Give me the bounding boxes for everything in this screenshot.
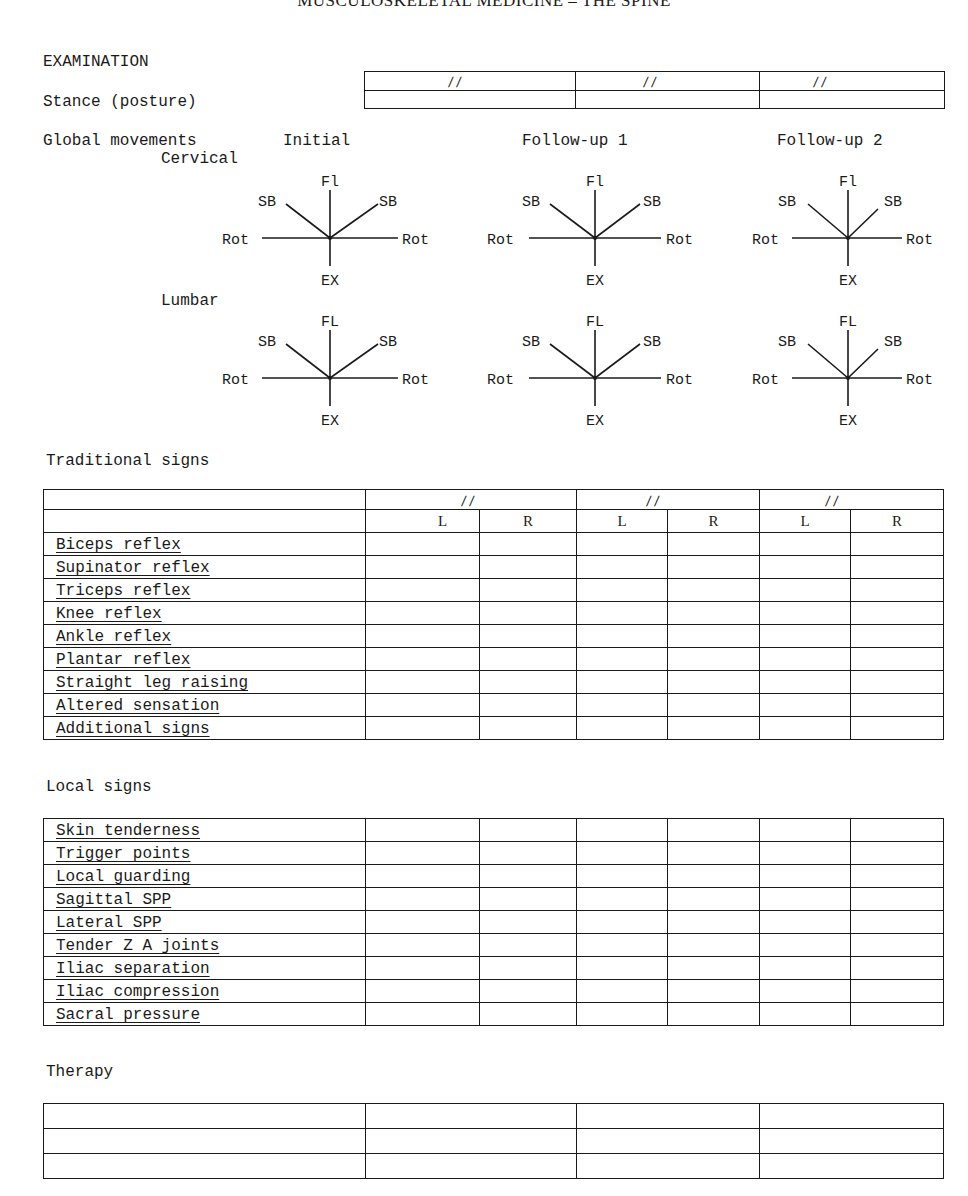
left-side-input-cell[interactable] bbox=[760, 625, 851, 648]
left-side-input-cell[interactable] bbox=[366, 717, 480, 740]
stance-followup2-input[interactable] bbox=[760, 91, 945, 109]
left-side-input-cell[interactable] bbox=[760, 533, 851, 556]
left-side-input-cell[interactable] bbox=[760, 648, 851, 671]
cervical-initial-star-diagram[interactable]: Fl SB SB Rot Rot EX bbox=[210, 168, 450, 293]
right-side-input-cell[interactable] bbox=[668, 888, 760, 911]
lumbar-initial-star-diagram[interactable]: FL SB SB Rot Rot EX bbox=[210, 308, 450, 433]
right-side-input-cell[interactable] bbox=[851, 865, 944, 888]
right-side-input-cell[interactable] bbox=[851, 934, 944, 957]
left-side-input-cell[interactable] bbox=[577, 819, 668, 842]
right-side-input-cell[interactable] bbox=[668, 579, 760, 602]
right-side-input-cell[interactable] bbox=[851, 533, 944, 556]
right-side-input-cell[interactable] bbox=[851, 1003, 944, 1026]
right-side-input-cell[interactable] bbox=[480, 602, 577, 625]
left-side-input-cell[interactable] bbox=[366, 934, 480, 957]
left-side-input-cell[interactable] bbox=[366, 865, 480, 888]
right-side-input-cell[interactable] bbox=[480, 648, 577, 671]
left-side-input-cell[interactable] bbox=[577, 957, 668, 980]
right-side-input-cell[interactable] bbox=[480, 865, 577, 888]
left-side-input-cell[interactable] bbox=[760, 911, 851, 934]
left-side-input-cell[interactable] bbox=[366, 556, 480, 579]
right-side-input-cell[interactable] bbox=[851, 602, 944, 625]
left-side-input-cell[interactable] bbox=[577, 865, 668, 888]
left-side-input-cell[interactable] bbox=[366, 1003, 480, 1026]
left-side-input-cell[interactable] bbox=[577, 888, 668, 911]
stance-date-followup1[interactable]: / / bbox=[576, 72, 760, 91]
therapy-input-cell[interactable] bbox=[366, 1104, 577, 1129]
right-side-input-cell[interactable] bbox=[668, 934, 760, 957]
left-side-input-cell[interactable] bbox=[760, 694, 851, 717]
right-side-input-cell[interactable] bbox=[851, 648, 944, 671]
right-side-input-cell[interactable] bbox=[668, 533, 760, 556]
stance-initial-input[interactable] bbox=[365, 91, 576, 109]
right-side-input-cell[interactable] bbox=[851, 819, 944, 842]
right-side-input-cell[interactable] bbox=[851, 980, 944, 1003]
trad-date-followup1[interactable]: / / bbox=[577, 490, 760, 510]
right-side-input-cell[interactable] bbox=[668, 865, 760, 888]
right-side-input-cell[interactable] bbox=[480, 533, 577, 556]
right-side-input-cell[interactable] bbox=[668, 1003, 760, 1026]
left-side-input-cell[interactable] bbox=[577, 671, 668, 694]
therapy-input-cell[interactable] bbox=[577, 1154, 760, 1179]
right-side-input-cell[interactable] bbox=[851, 911, 944, 934]
left-side-input-cell[interactable] bbox=[577, 694, 668, 717]
right-side-input-cell[interactable] bbox=[668, 980, 760, 1003]
left-side-input-cell[interactable] bbox=[577, 934, 668, 957]
right-side-input-cell[interactable] bbox=[480, 980, 577, 1003]
trad-date-followup2[interactable]: / / bbox=[760, 490, 944, 510]
right-side-input-cell[interactable] bbox=[851, 625, 944, 648]
left-side-input-cell[interactable] bbox=[760, 980, 851, 1003]
right-side-input-cell[interactable] bbox=[480, 911, 577, 934]
lumbar-followup2-star-diagram[interactable]: FL SB SB Rot Rot EX bbox=[728, 308, 968, 433]
left-side-input-cell[interactable] bbox=[760, 671, 851, 694]
left-side-input-cell[interactable] bbox=[366, 980, 480, 1003]
left-side-input-cell[interactable] bbox=[366, 819, 480, 842]
left-side-input-cell[interactable] bbox=[760, 819, 851, 842]
left-side-input-cell[interactable] bbox=[577, 842, 668, 865]
right-side-input-cell[interactable] bbox=[851, 888, 944, 911]
therapy-input-cell[interactable] bbox=[577, 1104, 760, 1129]
stance-date-initial[interactable]: / / bbox=[365, 72, 576, 91]
right-side-input-cell[interactable] bbox=[668, 957, 760, 980]
right-side-input-cell[interactable] bbox=[480, 842, 577, 865]
right-side-input-cell[interactable] bbox=[480, 556, 577, 579]
left-side-input-cell[interactable] bbox=[760, 1003, 851, 1026]
right-side-input-cell[interactable] bbox=[480, 888, 577, 911]
right-side-input-cell[interactable] bbox=[851, 694, 944, 717]
left-side-input-cell[interactable] bbox=[366, 579, 480, 602]
right-side-input-cell[interactable] bbox=[480, 671, 577, 694]
trad-date-initial[interactable]: / / bbox=[366, 490, 577, 510]
left-side-input-cell[interactable] bbox=[577, 602, 668, 625]
right-side-input-cell[interactable] bbox=[480, 819, 577, 842]
left-side-input-cell[interactable] bbox=[366, 625, 480, 648]
right-side-input-cell[interactable] bbox=[480, 625, 577, 648]
right-side-input-cell[interactable] bbox=[668, 556, 760, 579]
left-side-input-cell[interactable] bbox=[760, 934, 851, 957]
left-side-input-cell[interactable] bbox=[760, 888, 851, 911]
left-side-input-cell[interactable] bbox=[366, 671, 480, 694]
therapy-input-cell[interactable] bbox=[760, 1154, 944, 1179]
left-side-input-cell[interactable] bbox=[366, 911, 480, 934]
therapy-input-cell[interactable] bbox=[44, 1104, 366, 1129]
right-side-input-cell[interactable] bbox=[480, 1003, 577, 1026]
left-side-input-cell[interactable] bbox=[760, 717, 851, 740]
left-side-input-cell[interactable] bbox=[760, 602, 851, 625]
right-side-input-cell[interactable] bbox=[668, 671, 760, 694]
stance-followup1-input[interactable] bbox=[576, 91, 760, 109]
therapy-input-cell[interactable] bbox=[44, 1154, 366, 1179]
therapy-input-cell[interactable] bbox=[44, 1129, 366, 1154]
left-side-input-cell[interactable] bbox=[760, 957, 851, 980]
right-side-input-cell[interactable] bbox=[480, 579, 577, 602]
left-side-input-cell[interactable] bbox=[760, 556, 851, 579]
left-side-input-cell[interactable] bbox=[577, 980, 668, 1003]
left-side-input-cell[interactable] bbox=[760, 865, 851, 888]
right-side-input-cell[interactable] bbox=[668, 842, 760, 865]
right-side-input-cell[interactable] bbox=[668, 602, 760, 625]
left-side-input-cell[interactable] bbox=[366, 602, 480, 625]
right-side-input-cell[interactable] bbox=[480, 717, 577, 740]
left-side-input-cell[interactable] bbox=[366, 533, 480, 556]
therapy-input-cell[interactable] bbox=[577, 1129, 760, 1154]
right-side-input-cell[interactable] bbox=[851, 579, 944, 602]
right-side-input-cell[interactable] bbox=[668, 694, 760, 717]
therapy-input-cell[interactable] bbox=[760, 1129, 944, 1154]
